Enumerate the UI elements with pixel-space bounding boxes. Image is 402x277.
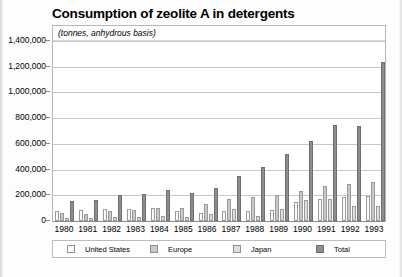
bar-europe	[227, 199, 231, 221]
x-axis-tick-label: 1982	[102, 224, 121, 234]
bar-europe	[323, 186, 327, 221]
bar-europe	[204, 204, 208, 221]
legend-item-japan[interactable]: Japan	[219, 245, 302, 254]
legend-item-label: Europe	[168, 245, 192, 254]
bar-europe	[84, 214, 88, 221]
bar-total	[166, 190, 170, 221]
bar-europe	[251, 197, 255, 221]
chart-title: Consumption of zeolite A in detergents	[52, 6, 295, 21]
bar-united-states	[246, 211, 250, 221]
bar-united-states	[79, 210, 83, 221]
bar-total	[142, 194, 146, 221]
bar-total	[357, 126, 361, 221]
x-axis-tick-label: 1993	[365, 224, 384, 234]
bar-group	[315, 41, 339, 221]
bar-europe	[347, 184, 351, 221]
x-axis-tick-label: 1990	[293, 224, 312, 234]
legend-item-europe[interactable]: Europe	[136, 245, 219, 254]
bar-japan	[161, 216, 165, 221]
bar-united-states	[103, 209, 107, 221]
legend-item-label: Japan	[251, 245, 271, 254]
bar-united-states	[175, 211, 179, 221]
bar-united-states	[127, 209, 131, 221]
bar-group	[339, 41, 363, 221]
legend-item-united-states[interactable]: United States	[53, 245, 136, 254]
plot-area: (tonnes, anhydrous basis)	[52, 25, 386, 222]
legend-swatch-europe	[150, 245, 158, 253]
bar-europe	[156, 208, 160, 221]
bar-japan	[185, 217, 189, 222]
y-axis-tick-mark	[46, 40, 50, 41]
x-axis-tick-label: 1989	[269, 224, 288, 234]
bar-japan	[113, 217, 117, 221]
legend-swatch-total	[316, 245, 324, 253]
bar-europe	[299, 191, 303, 221]
y-axis-tick-label: 1,000,000	[8, 86, 46, 96]
y-axis-tick-mark	[46, 143, 50, 144]
bar-total	[237, 176, 241, 221]
gridline	[53, 221, 385, 222]
bar-japan	[65, 218, 69, 221]
bar-group	[77, 41, 101, 221]
y-axis-tick-mark	[46, 66, 50, 67]
bar-total	[333, 125, 337, 221]
y-axis-tick-label: 1,200,000	[8, 61, 46, 71]
x-axis-tick-label: 1986	[198, 224, 217, 234]
bar-total	[94, 200, 98, 221]
chart-page: Consumption of zeolite A in detergents 0…	[0, 0, 402, 277]
bar-united-states	[318, 199, 322, 222]
bar-japan	[89, 218, 93, 221]
y-axis-tick-label: 1,400,000	[8, 35, 46, 45]
bar-united-states	[55, 211, 59, 221]
bar-total	[190, 193, 194, 221]
bar-united-states	[342, 197, 346, 221]
x-axis-tick-label: 1988	[245, 224, 264, 234]
bar-japan	[137, 217, 141, 222]
x-axis-tick-label: 1985	[174, 224, 193, 234]
bar-europe	[180, 208, 184, 222]
legend-item-total[interactable]: Total	[302, 245, 385, 254]
bar-group	[172, 41, 196, 221]
bar-europe	[132, 210, 136, 221]
bar-japan	[352, 206, 356, 221]
bar-europe	[371, 182, 375, 221]
x-axis-tick-label: 1983	[126, 224, 145, 234]
x-axis-tick-label: 1991	[317, 224, 336, 234]
bar-group	[53, 41, 77, 221]
y-axis-tick-label: 800,000	[15, 112, 46, 122]
bar-total	[381, 62, 385, 221]
x-axis-tick-label: 1981	[78, 224, 97, 234]
y-axis-tick-mark	[46, 194, 50, 195]
y-axis-tick-mark	[46, 169, 50, 170]
legend-swatch-japan	[233, 245, 241, 253]
chart-subtitle: (tonnes, anhydrous basis)	[53, 26, 385, 41]
bar-japan	[256, 216, 260, 221]
bar-group	[148, 41, 172, 221]
bar-japan	[280, 209, 284, 221]
bar-united-states	[199, 213, 203, 221]
bar-united-states	[366, 196, 370, 221]
bar-total	[214, 188, 218, 221]
y-axis-tick-label: 600,000	[15, 138, 46, 148]
bar-total	[285, 154, 289, 221]
bar-japan	[328, 199, 332, 222]
bar-europe	[60, 213, 64, 221]
y-axis-tick-mark	[46, 91, 50, 92]
bar-united-states	[151, 208, 155, 221]
bar-total	[70, 201, 74, 221]
y-axis-tick-mark	[46, 220, 50, 221]
bar-united-states	[222, 211, 226, 221]
legend-swatch-united-states	[67, 245, 75, 253]
x-axis-tick-label: 1980	[54, 224, 73, 234]
bar-total	[118, 195, 122, 221]
bar-group	[220, 41, 244, 221]
bar-group	[363, 41, 387, 221]
x-axis-tick-label: 1987	[221, 224, 240, 234]
bar-group	[268, 41, 292, 221]
bar-total	[261, 167, 265, 221]
bar-japan	[376, 206, 380, 221]
bar-united-states	[270, 210, 274, 221]
bar-group	[101, 41, 125, 221]
chart-legend: United StatesEuropeJapanTotal	[52, 240, 386, 258]
x-axis-tick-label: 1992	[341, 224, 360, 234]
